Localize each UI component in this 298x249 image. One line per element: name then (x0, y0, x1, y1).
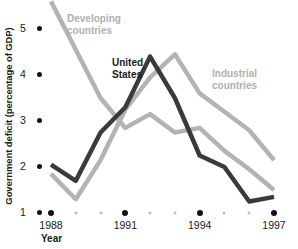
x-tick-dot-minor-icon (248, 212, 251, 215)
x-tick-label: 1991 (103, 219, 147, 231)
x-tick-dot-major-icon (48, 210, 54, 216)
x-tick-label: 1988 (29, 219, 73, 231)
x-tick-dot-major-icon (122, 210, 128, 216)
x-tick-dot-major-icon (197, 210, 203, 216)
x-tick-dot-minor-icon (223, 212, 226, 215)
x-axis-title: Year (41, 233, 62, 244)
series-label-industrial-countries: Industrial countries (212, 68, 257, 91)
x-tick-dot-minor-icon (99, 212, 102, 215)
series-label-united-states: United States (112, 57, 143, 80)
chart-container: Government deficit (percentage of GDP) 5… (0, 0, 298, 249)
x-tick-dot-minor-icon (149, 212, 152, 215)
x-tick-label: 1997 (252, 219, 296, 231)
x-tick-dot-minor-icon (74, 212, 77, 215)
series-label-developing-countries: Developing countries (67, 13, 121, 36)
x-tick-dot-minor-icon (173, 212, 176, 215)
x-tick-dot-major-icon (271, 210, 277, 216)
x-tick-label: 1994 (178, 219, 222, 231)
